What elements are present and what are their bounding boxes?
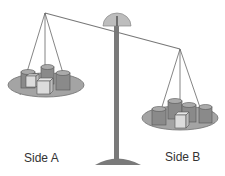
scale-pole [114, 26, 119, 164]
side-a-label: Side A [24, 151, 59, 165]
balance-scale-diagram: Side A Side B [0, 0, 225, 176]
side-b-label: Side B [165, 150, 200, 164]
